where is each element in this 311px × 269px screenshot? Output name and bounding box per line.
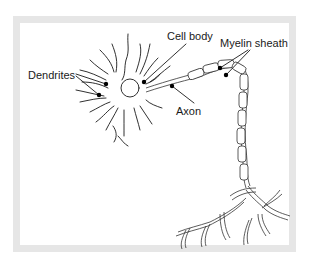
label-axon: Axon — [176, 105, 201, 117]
label-myelin-sheath: Myelin sheath — [220, 37, 288, 49]
myelin-sheath — [187, 59, 248, 180]
label-dendrites: Dendrites — [28, 69, 76, 81]
axon-terminals — [176, 186, 290, 249]
nucleus — [121, 79, 139, 97]
dendrites — [76, 34, 170, 146]
neuron-diagram: Dendrites Cell body Myelin sheath Axon — [0, 0, 311, 269]
label-cell-body: Cell body — [167, 30, 213, 42]
axon — [146, 63, 250, 188]
leader-lines — [76, 44, 250, 103]
